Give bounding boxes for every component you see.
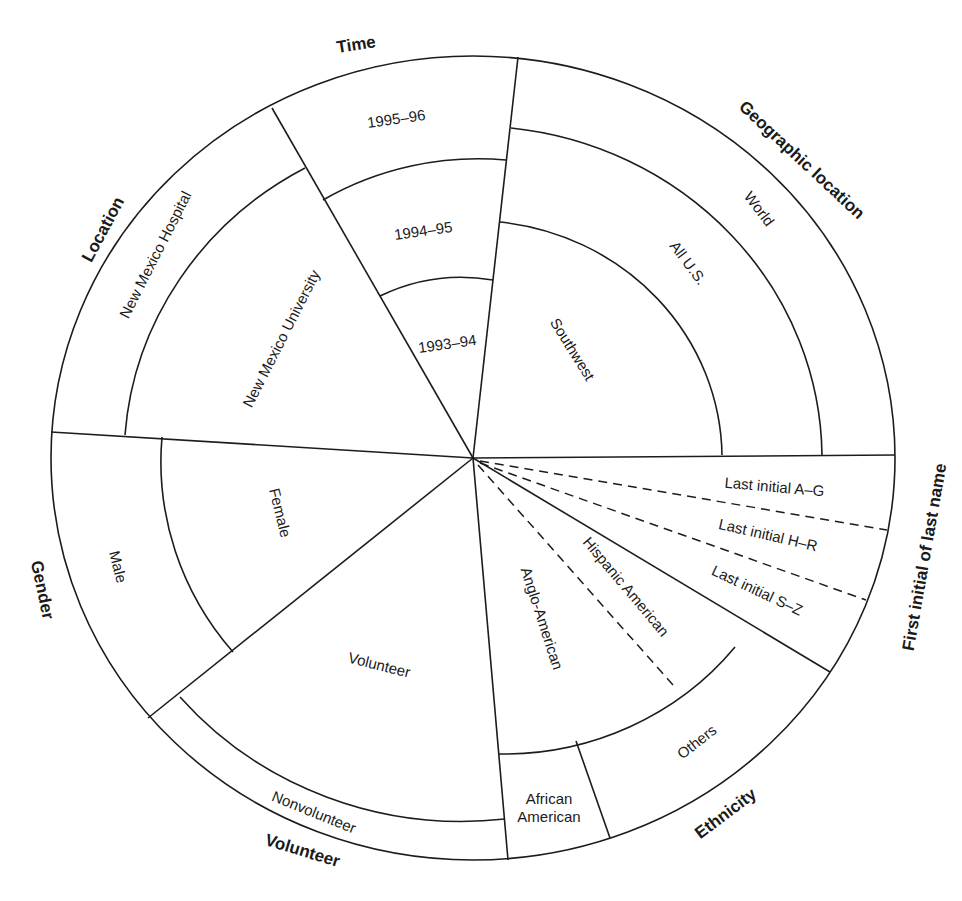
divider-time-geographic [473, 57, 518, 458]
header-gender: Gender [27, 559, 58, 622]
divider-african-others [576, 741, 610, 838]
wheel-structure [51, 56, 895, 860]
label-others: Others [674, 721, 720, 762]
dash-initial-ag-hr [480, 461, 887, 530]
label-female: Female [266, 486, 295, 539]
label-african-american-1: African [526, 790, 573, 807]
label-african-american-2: American [517, 808, 580, 825]
label-nonvolunteer: Nonvolunteer [270, 787, 359, 836]
arc-volunteer-inner [180, 697, 505, 821]
divider-volunteer-gender [148, 458, 473, 718]
dash-ethnicity-anglo-hispanic [478, 465, 673, 685]
label-southwest: Southwest [547, 315, 599, 384]
label-nm-hospital: New Mexico Hospital [116, 188, 195, 321]
header-ethnicity: Ethnicity [691, 784, 760, 843]
label-all-us: All U.S. [667, 238, 711, 288]
arc-time-1993 [380, 277, 493, 296]
label-nm-university: New Mexico University [239, 267, 323, 410]
arc-gender-female [161, 437, 233, 652]
header-first-initial: First initial of last name [899, 462, 951, 652]
label-initial-sz: Last initial S–Z [709, 562, 805, 619]
label-initial-ag: Last initial A–G [724, 474, 825, 500]
label-anglo-american: Anglo-American [518, 565, 567, 672]
arc-time-1994 [323, 159, 506, 200]
label-1994-95: 1994–95 [393, 218, 453, 243]
divider-gender-location [51, 432, 473, 458]
divider-geographic-initial [473, 455, 895, 458]
label-1993-94: 1993–94 [417, 331, 477, 356]
label-volunteer: Volunteer [347, 649, 413, 681]
header-time: Time [335, 32, 377, 57]
header-location: Location [78, 194, 128, 265]
arc-location-university [125, 168, 305, 435]
diagram-canvas: Time Geographic location First initial o… [0, 0, 962, 901]
label-male: Male [106, 549, 130, 585]
label-initial-hr: Last initial H–R [717, 515, 819, 554]
label-world: World [741, 188, 778, 229]
label-1995-96: 1995–96 [366, 106, 426, 131]
sector-headers: Time Geographic location First initial o… [27, 32, 951, 871]
sampling-wheel-diagram: Time Geographic location First initial o… [0, 0, 962, 901]
ring-labels: 1995–96 1994–95 1993–94 World All U.S. S… [106, 106, 825, 836]
divider-ethnicity-volunteer [473, 458, 508, 860]
